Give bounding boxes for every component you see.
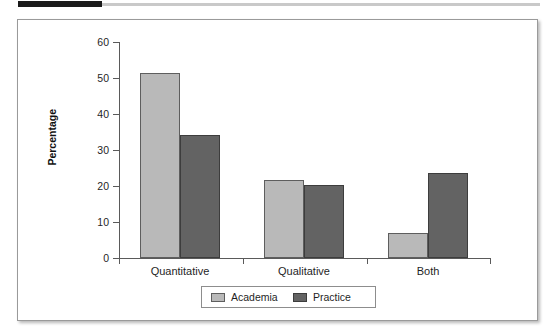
bar-academia-qualitative [264, 180, 304, 259]
y-axis-line [119, 42, 120, 259]
y-tick-label-0: 0 [69, 253, 109, 264]
bar-practice-qualitative [304, 185, 344, 258]
black-rule [18, 1, 102, 7]
bar-practice-both [428, 173, 468, 258]
y-tick-label-10: 10 [69, 217, 109, 228]
y-tick-0: 0 [18, 258, 119, 259]
x-category-label-quantitative: Quantitative [120, 266, 240, 277]
x-tick-start [119, 259, 120, 264]
x-category-label-qualitative: Qualitative [244, 266, 364, 277]
gray-rule [102, 3, 540, 6]
y-tick-label-40: 40 [69, 109, 109, 120]
y-tick-40: 40 [18, 114, 119, 115]
figure-frame: Percentage 0 10 20 30 40 50 60 [17, 19, 538, 321]
bar-academia-quantitative [140, 73, 180, 258]
legend-label-practice: Practice [313, 292, 351, 303]
x-tick-end [490, 259, 491, 264]
y-tick-label-50: 50 [69, 73, 109, 84]
y-tick-50: 50 [18, 78, 119, 79]
legend-item-academia: Academia [211, 291, 278, 304]
y-tick-label-60: 60 [69, 37, 109, 48]
y-tick-10: 10 [18, 222, 119, 223]
x-category-label-both: Both [368, 266, 488, 277]
y-tick-30: 30 [18, 150, 119, 151]
chart-legend: Academia Practice [201, 286, 376, 308]
y-tick-label-20: 20 [69, 181, 109, 192]
legend-swatch-academia-icon [211, 293, 225, 302]
legend-item-practice: Practice [293, 291, 351, 304]
bar-practice-quantitative [180, 135, 220, 258]
y-tick-60: 60 [18, 42, 119, 43]
y-tick-label-30: 30 [69, 145, 109, 156]
top-rule-band [0, 0, 558, 10]
x-tick-2 [367, 259, 368, 264]
y-tick-20: 20 [18, 186, 119, 187]
legend-swatch-practice-icon [293, 293, 307, 302]
x-axis-line [119, 258, 491, 259]
x-tick-1 [243, 259, 244, 264]
bar-academia-both [388, 233, 428, 258]
plot-area: Percentage 0 10 20 30 40 50 60 [18, 20, 539, 322]
y-axis-title: Percentage [47, 87, 58, 187]
legend-label-academia: Academia [231, 292, 278, 303]
